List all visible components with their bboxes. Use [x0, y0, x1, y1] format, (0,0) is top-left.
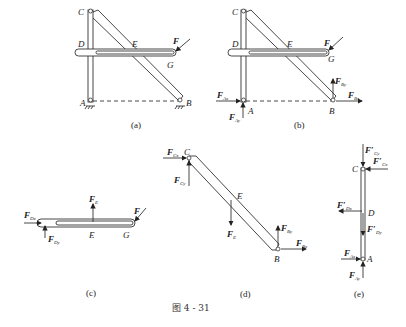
- label-b: B: [186, 98, 192, 108]
- label-a: A: [247, 106, 254, 116]
- svg-text:Cx: Cx: [382, 162, 388, 167]
- svg-text:Bx: Bx: [354, 96, 360, 101]
- label-fay: F: [228, 112, 235, 122]
- label-fby: F: [280, 223, 287, 233]
- label-fcy: F: [173, 175, 180, 185]
- svg-text:Ax: Ax: [349, 254, 356, 259]
- svg-text:Dy: Dy: [53, 240, 61, 245]
- label-e: E: [88, 230, 95, 240]
- panel-b: C D E F G F Ax F Ay A F By F Bx B (b): [216, 7, 362, 130]
- svg-text:Dx: Dx: [29, 216, 37, 221]
- slot: [96, 51, 174, 54]
- svg-text:Ay: Ay: [234, 118, 241, 123]
- svg-text:By: By: [287, 229, 293, 234]
- svg-text:By: By: [341, 82, 347, 87]
- svg-text:E: E: [94, 200, 98, 205]
- support-a-icon: [85, 106, 95, 109]
- panel-a: C D E F G A B (a): [75, 7, 192, 130]
- svg-text:Cx: Cx: [173, 153, 179, 158]
- caption-d: (d): [240, 289, 251, 299]
- label-g: G: [167, 60, 174, 70]
- label-f: F: [172, 36, 179, 46]
- panel-c: F Dx F Dy F E F E G (c): [23, 194, 146, 298]
- figure-4-31: C D E F G A B (a) C D E F G F Ax F Ay A …: [0, 0, 406, 327]
- support-b-icon: [175, 106, 185, 109]
- svg-text:Dy: Dy: [375, 230, 383, 235]
- pin-a: [242, 98, 246, 102]
- label-fby: F: [334, 76, 341, 86]
- slot: [249, 51, 327, 54]
- pin-c: [242, 9, 246, 13]
- label-g: G: [123, 230, 130, 240]
- label-fax: F: [343, 248, 350, 258]
- label-d: D: [231, 39, 239, 49]
- caption-a: (a): [131, 120, 141, 130]
- label-c: C: [352, 164, 359, 174]
- pin-a: [361, 257, 365, 261]
- svg-text:Ax: Ax: [222, 96, 229, 101]
- label-d: D: [77, 39, 85, 49]
- label-fbx: F: [295, 238, 302, 248]
- svg-text:Dx: Dx: [345, 206, 353, 211]
- label-fcx-prime: F′: [372, 156, 382, 166]
- label-a: A: [366, 254, 373, 264]
- pin-b: [331, 98, 335, 102]
- pin-b: [276, 247, 280, 251]
- label-fdy-prime: F′: [366, 224, 376, 234]
- label-b: B: [329, 106, 335, 116]
- svg-text:Ay: Ay: [354, 276, 361, 281]
- label-e: E: [131, 39, 138, 49]
- figure-caption: 图 4 - 31: [172, 303, 210, 313]
- label-fe: F: [226, 229, 233, 239]
- label-fcy-prime: F′: [364, 145, 374, 155]
- pin-c: [361, 167, 365, 171]
- svg-text:Cy: Cy: [180, 181, 186, 186]
- pin-b: [178, 98, 182, 102]
- label-fe: F: [88, 194, 95, 204]
- caption-c: (c): [86, 288, 96, 298]
- label-fdx-prime: F′: [336, 200, 346, 210]
- caption-b: (b): [294, 120, 305, 130]
- label-fdx: F: [23, 210, 30, 220]
- label-e: E: [286, 39, 293, 49]
- pin-a: [89, 98, 93, 102]
- svg-text:Bx: Bx: [302, 244, 308, 249]
- label-a: A: [79, 98, 86, 108]
- pin-c: [89, 9, 93, 13]
- svg-text:E: E: [232, 235, 236, 240]
- label-fcx: F: [166, 147, 173, 157]
- label-fax: F: [216, 90, 223, 100]
- label-f: F: [323, 38, 330, 48]
- label-c: C: [78, 7, 85, 17]
- label-b: B: [274, 254, 280, 264]
- label-g: G: [328, 54, 335, 64]
- label-f: F: [133, 206, 140, 216]
- label-fay: F: [348, 270, 355, 280]
- label-e: E: [236, 191, 243, 201]
- label-fdy: F: [47, 234, 54, 244]
- label-fbx: F: [347, 90, 354, 100]
- label-c: C: [184, 147, 191, 157]
- force-f-arrow: [329, 37, 343, 50]
- slot: [56, 221, 133, 225]
- label-c: C: [232, 7, 239, 17]
- label-d: D: [367, 208, 375, 218]
- panel-d: F Cx C F Cy E F E F By F Bx B (d): [163, 147, 308, 299]
- panel-e: F′ Cy F′ Cx C F′ Dx D F′ Dy F Ax A F Ay …: [336, 144, 388, 299]
- caption-e: (e): [354, 289, 364, 299]
